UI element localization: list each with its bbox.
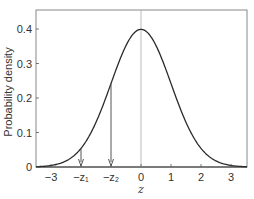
plot-frame	[36, 10, 247, 167]
x-tick-label: 0	[138, 171, 144, 183]
y-axis-label: Probability density	[2, 47, 14, 137]
density-curve	[36, 29, 247, 166]
y-tick-label: 0	[26, 161, 32, 173]
plot-border	[36, 10, 247, 167]
density-curve-path	[36, 29, 247, 166]
x-tick-label: 2	[198, 171, 204, 183]
x-axis-label: z	[137, 183, 144, 196]
y-tick-label: 0.3	[17, 58, 32, 70]
y-tick-label: 0.1	[17, 127, 32, 139]
critical-value-arrows	[79, 84, 114, 166]
x-tick-label: 1	[168, 171, 174, 183]
y-tick-label: 0.2	[17, 92, 32, 104]
normal-density-chart: −3−z₁−z₂0123 00.10.20.30.4 z Probability…	[0, 0, 254, 199]
x-tick-label: −z₂	[103, 171, 119, 183]
x-tick-label: −3	[45, 171, 58, 183]
x-tick-label: 3	[228, 171, 234, 183]
x-tick-label: −z₁	[73, 171, 89, 183]
y-tick-label: 0.4	[17, 23, 32, 35]
